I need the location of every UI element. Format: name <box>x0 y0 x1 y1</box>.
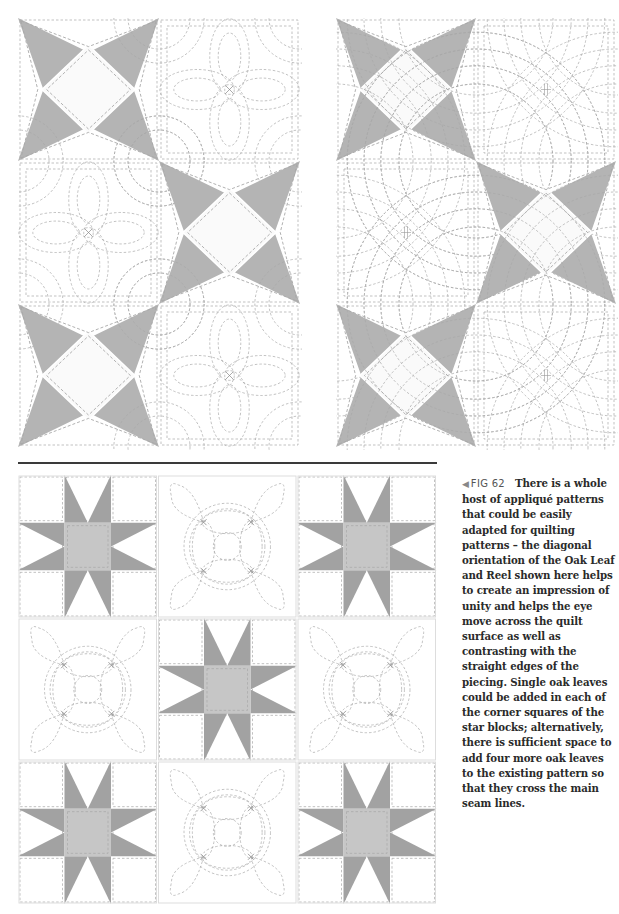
quilt-block-orange-peel <box>114 259 302 450</box>
divider-rule <box>18 462 437 464</box>
caption-text: There is a whole host of appliqué patter… <box>462 477 614 809</box>
quilt-block-eight-point-star <box>18 475 158 618</box>
quilt-block-star <box>18 304 159 447</box>
quilt-illustration-petal-fan <box>336 18 618 450</box>
quilt-block-oak-leaf-reel <box>159 476 297 617</box>
quilt-block-oak-leaf-reel <box>298 619 436 760</box>
quilt-block-star <box>476 161 616 304</box>
quilt-figure-top-right <box>336 18 618 450</box>
quilt-figure-top-left <box>18 18 302 450</box>
quilt-illustration-orange-peel <box>18 18 302 450</box>
quilt-figure-bottom <box>18 475 439 907</box>
quilt-block-star <box>336 304 476 447</box>
figure-label: FIG 62 <box>471 478 505 489</box>
quilt-block-orange-peel <box>18 116 204 349</box>
quilt-block-oak-leaf-reel <box>159 762 297 903</box>
figure-caption: ◀FIG 62There is a whole host of appliqué… <box>462 476 618 811</box>
quilt-block-eight-point-star <box>297 761 437 904</box>
arrow-left-icon: ◀ <box>462 479 469 489</box>
quilt-block-eight-point-star <box>297 475 437 618</box>
quilt-block-oak-leaf-reel <box>19 619 157 760</box>
quilt-illustration-oak-leaf-reel <box>18 475 439 907</box>
quilt-block-eight-point-star <box>158 618 298 761</box>
quilt-block-star <box>336 18 476 161</box>
quilt-block-eight-point-star <box>18 761 158 904</box>
quilt-block-star <box>18 18 159 161</box>
quilt-block-star <box>159 161 300 304</box>
